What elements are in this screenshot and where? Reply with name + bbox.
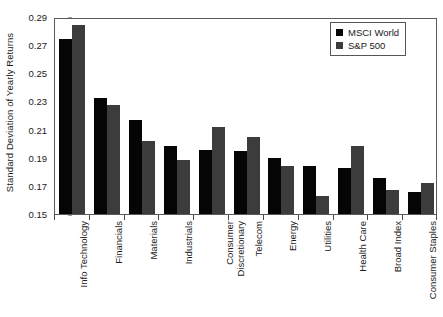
bar xyxy=(199,150,212,214)
y-axis-title: Standard Deviation of Yearly Returns xyxy=(0,0,20,225)
x-tick-label-line: Telecom xyxy=(253,221,264,317)
legend-label: S&P 500 xyxy=(348,39,385,52)
bar-group xyxy=(268,19,294,214)
y-tick-label: 0.19 xyxy=(29,154,48,164)
x-tick-mark xyxy=(54,215,55,220)
bar xyxy=(129,120,142,214)
bar xyxy=(338,168,351,214)
y-tick-label: 0.27 xyxy=(29,41,48,51)
bar xyxy=(142,141,155,214)
bar xyxy=(212,127,225,214)
x-tick-label: Health Care xyxy=(357,221,371,317)
x-tick-label: Materials xyxy=(148,221,162,317)
bar xyxy=(281,166,294,214)
bar xyxy=(351,146,364,214)
x-tick-label: Financials xyxy=(113,221,127,317)
x-tick-mark xyxy=(367,215,368,220)
bar-group xyxy=(59,19,85,214)
x-tick-label-line: Discretionary xyxy=(235,221,246,317)
bar xyxy=(408,192,421,215)
bar xyxy=(177,160,190,214)
x-tick-label: Broad Index xyxy=(392,221,406,317)
x-tick-label: Info Technology xyxy=(78,221,92,317)
y-tick-label: 0.25 xyxy=(29,70,48,80)
bar-group xyxy=(164,19,190,214)
x-tick-label-line: Financials xyxy=(113,221,124,317)
y-tick-label: 0.15 xyxy=(29,210,48,220)
bar-group xyxy=(94,19,120,214)
bar xyxy=(247,137,260,214)
x-tick-mark xyxy=(402,215,403,220)
legend-item[interactable]: S&P 500 xyxy=(336,39,399,52)
bar xyxy=(303,166,316,214)
x-tick-mark xyxy=(124,215,125,220)
bar xyxy=(234,151,247,214)
x-tick-label-line: Info Technology xyxy=(78,221,89,317)
x-tick-label: Consumer Staples xyxy=(427,221,441,317)
x-tick-mark xyxy=(193,215,194,220)
legend-swatch xyxy=(336,42,343,49)
x-tick-mark xyxy=(436,215,437,220)
y-axis-title-text: Standard Deviation of Yearly Returns xyxy=(5,33,16,192)
bar xyxy=(72,25,85,214)
x-axis-tick-labels: Info TechnologyFinancialsMaterialsIndust… xyxy=(54,221,437,317)
x-tick-label: ConsumerDiscretionary xyxy=(224,221,250,317)
bar-group xyxy=(408,19,434,214)
x-tick-label-line: Energy xyxy=(287,221,298,317)
y-tick-label: 0.29 xyxy=(29,13,48,23)
legend-label: MSCI World xyxy=(348,26,399,39)
bar xyxy=(164,146,177,214)
x-tick-label: Utilities xyxy=(322,221,336,317)
x-tick-mark xyxy=(298,215,299,220)
y-axis-tick-labels: 0.150.170.190.210.230.250.270.29 xyxy=(18,0,50,225)
bar-group xyxy=(303,19,329,214)
bar xyxy=(386,190,399,214)
bar xyxy=(421,183,434,214)
bar xyxy=(59,39,72,214)
x-tick-label: Energy xyxy=(287,221,301,317)
bar-group xyxy=(199,19,225,214)
y-tick-label: 0.17 xyxy=(29,182,48,192)
x-tick-mark xyxy=(158,215,159,220)
x-tick-label-line: Broad Index xyxy=(392,221,403,317)
x-tick-mark xyxy=(89,215,90,220)
bar xyxy=(268,158,281,214)
legend-swatch xyxy=(336,29,343,36)
x-tick-mark xyxy=(333,215,334,220)
x-tick-mark xyxy=(228,215,229,220)
x-tick-label-line: Health Care xyxy=(357,221,368,317)
bar xyxy=(107,105,120,214)
x-tick-label-line: Utilities xyxy=(322,221,333,317)
x-tick-mark xyxy=(263,215,264,220)
bar xyxy=(94,98,107,214)
x-tick-label-line: Industrials xyxy=(183,221,194,317)
chart-legend: MSCI WorldS&P 500 xyxy=(330,22,406,56)
bar xyxy=(316,196,329,214)
x-tick-label: Telecom xyxy=(253,221,267,317)
y-tick-label: 0.21 xyxy=(29,126,48,136)
x-tick-label-line: Consumer Staples xyxy=(427,221,438,317)
x-tick-label-line: Consumer xyxy=(224,221,235,317)
x-tick-label-line: Materials xyxy=(148,221,159,317)
legend-item[interactable]: MSCI World xyxy=(336,26,399,39)
y-tick-label: 0.23 xyxy=(29,98,48,108)
x-tick-label: Industrials xyxy=(183,221,197,317)
bar-group xyxy=(129,19,155,214)
bar xyxy=(373,178,386,214)
bar-group xyxy=(234,19,260,214)
bar-chart-figure: Standard Deviation of Yearly Returns 0.1… xyxy=(0,0,443,317)
